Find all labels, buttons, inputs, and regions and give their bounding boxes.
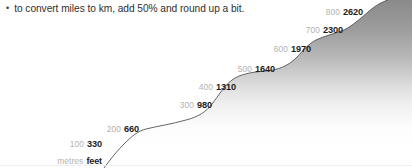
label-metres-value: 400 [199,82,213,92]
label-feet-value: 1970 [291,44,311,54]
label-metres-value: 500 [238,64,252,74]
label-metres-value: 300 [180,100,194,110]
bullet-note-text: to convert miles to km, add 50% and roun… [14,2,244,16]
label-feet-value: feet [86,156,102,166]
label-feet-value: 2300 [323,25,343,35]
chart-point-label-800m: 8002620 [326,5,363,17]
label-feet-value: 1640 [255,64,275,74]
chart-point-label-600m: 6001970 [274,42,311,54]
label-metres-value: 600 [274,44,288,54]
chart-point-label-200m: 200660 [107,122,139,134]
chart-point-label-700m: 7002300 [306,23,343,35]
label-feet-value: 980 [197,100,212,110]
label-metres-value: 800 [326,7,340,17]
chart-point-label-300m: 300980 [180,98,212,110]
label-feet-value: 660 [124,124,139,134]
bullet-icon: • [6,4,9,13]
label-feet-value: 330 [87,139,102,149]
chart-point-label-400m: 4001310 [199,80,236,92]
bullet-note: • to convert miles to km, add 50% and ro… [6,2,244,16]
chart-point-label-500m: 5001640 [238,62,275,74]
label-metres-value: metres [57,156,83,166]
chart-point-label-axis-header: metresfeet [57,154,102,166]
label-feet-value: 1310 [216,82,236,92]
label-metres-value: 100 [70,139,84,149]
chart-point-label-100m: 100330 [70,137,102,149]
label-metres-value: 700 [306,25,320,35]
label-feet-value: 2620 [343,7,363,17]
slope-fill-area [104,0,412,168]
slide-canvas: • to convert miles to km, add 50% and ro… [0,0,412,168]
label-metres-value: 200 [107,124,121,134]
